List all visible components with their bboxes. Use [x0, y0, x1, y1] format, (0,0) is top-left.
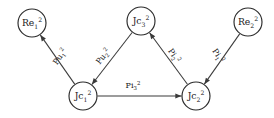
arrow-head-icon: [40, 35, 46, 42]
arrow-head-icon: [92, 78, 98, 84]
edge-label-e5: Pi32: [126, 80, 141, 91]
graph-diagram: Re12Jc32Re22Jc12Jc22 Pu12Pu22Pi22Pi12Pi3…: [0, 0, 274, 118]
graph-node-re1[interactable]: Re12: [18, 9, 46, 37]
graph-node-jc1[interactable]: Jc12: [69, 82, 97, 110]
arrow-head-icon: [204, 78, 210, 85]
graph-node-jc2[interactable]: Jc22: [182, 82, 210, 110]
arrow-head-icon: [150, 33, 156, 39]
edge-label-e2: Pu22: [93, 46, 113, 67]
graph-node-jc3[interactable]: Jc32: [127, 7, 155, 35]
graph-canvas: Re12Jc32Re22Jc12Jc22 Pu12Pu22Pi22Pi12Pi3…: [0, 0, 274, 118]
graph-edge: [98, 94, 182, 99]
edge-label-e1: Pu12: [50, 46, 69, 67]
graph-node-re2[interactable]: Re22: [234, 8, 262, 36]
edge-label-e3: Pi22: [165, 46, 183, 65]
edge-label-e4: Pi12: [209, 46, 227, 65]
edges-layer: [40, 32, 239, 98]
arrow-head-icon: [175, 94, 181, 99]
